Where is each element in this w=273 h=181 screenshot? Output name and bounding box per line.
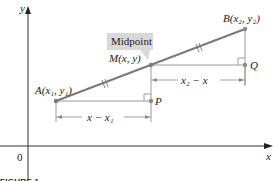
point-b [243,27,247,31]
y-axis-label: y [19,2,25,14]
y-axis-arrow-icon [25,6,31,14]
point-q [243,63,247,67]
point-m-label: M(x, y) [108,52,141,65]
y-axis [25,6,31,180]
point-a [54,99,58,103]
x-axis-arrow-icon [264,143,273,149]
x-axis-label: x [265,150,271,162]
point-m [149,63,153,67]
figure-caption: FIGURE 1 [0,177,40,181]
x-axis [0,143,273,149]
midpoint-diagram: Midpoint y x 0 A(x₁, y₁) M(x, y) B(x₂, y… [0,0,273,181]
dimension-lower-label: x − x₁ [86,111,114,123]
point-b-label: B(x₂, y₂) [223,12,260,25]
point-q-label: Q [250,59,258,71]
point-p [149,99,153,103]
midpoint-callout-text: Midpoint [111,35,152,47]
point-p-label: P [154,95,162,107]
origin-label: 0 [17,151,23,163]
point-a-label: A(x₁, y₁) [34,84,72,97]
dimension-upper-label: x₂ − x [180,74,208,86]
